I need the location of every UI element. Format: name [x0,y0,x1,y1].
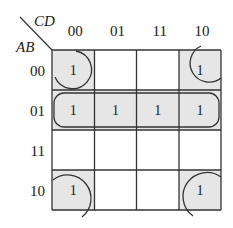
column-label: 01 [110,23,125,39]
column-label: 10 [195,23,210,39]
column-label: 11 [153,23,167,39]
column-label: 00 [68,23,83,39]
cell-value: 1 [112,103,119,118]
cell-value: 1 [70,63,77,78]
row-label: 11 [31,143,45,159]
row-label: 01 [30,103,45,119]
cell-value: 1 [70,183,77,198]
cell-value: 1 [197,63,204,78]
col-variable-label: CD [34,13,55,29]
row-variable-label: AB [15,39,34,55]
cell-value: 1 [197,103,204,118]
karnaugh-map: CD AB 00011110 00011110 11111111 [0,0,233,228]
cell-value: 1 [154,103,161,118]
row-label: 10 [30,183,45,199]
cell-value: 1 [197,183,204,198]
cell-value: 1 [70,103,77,118]
row-label: 00 [30,63,45,79]
